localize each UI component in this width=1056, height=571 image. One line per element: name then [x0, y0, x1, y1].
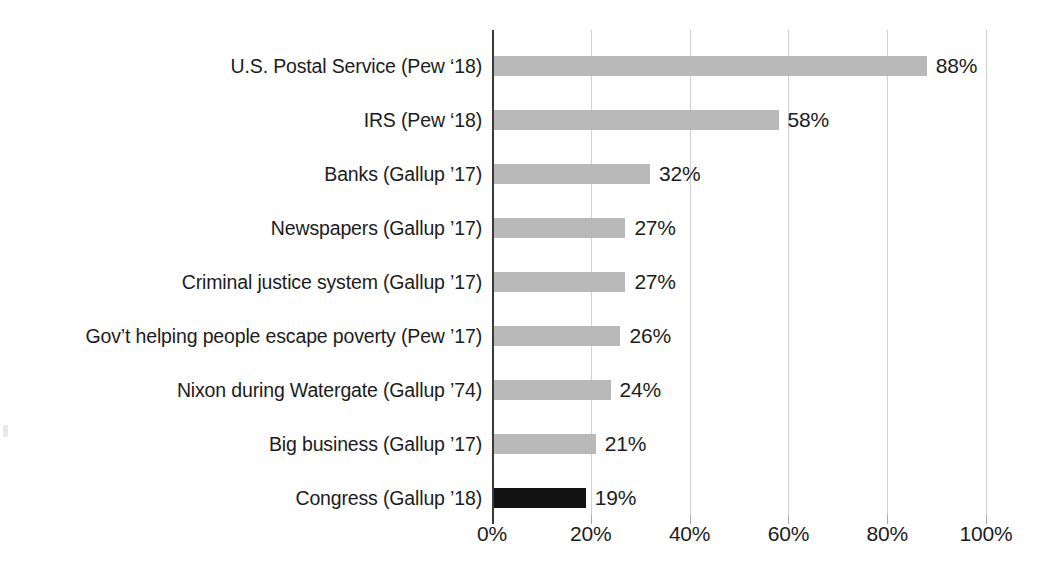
gridline-100% [986, 30, 987, 515]
bar [492, 110, 779, 130]
category-label: Congress (Gallup ’18) [0, 471, 482, 525]
x-tick-label: 100% [960, 522, 1013, 546]
category-label: IRS (Pew ‘18) [0, 93, 482, 147]
bar-row: Congress (Gallup ’18)19% [492, 471, 986, 525]
bar [492, 434, 596, 454]
x-tick-label: 80% [866, 522, 907, 546]
category-label: Gov’t helping people escape poverty (Pew… [0, 309, 482, 363]
category-label: Newspapers (Gallup ’17) [0, 201, 482, 255]
y-axis-line [492, 30, 494, 515]
bar-value-label: 21% [596, 434, 646, 454]
x-tick-label: 20% [570, 522, 611, 546]
bar-row: U.S. Postal Service (Pew ‘18)88% [492, 39, 986, 93]
bar [492, 272, 625, 292]
bar [492, 164, 650, 184]
bar-row: Newspapers (Gallup ’17)27% [492, 201, 986, 255]
category-label: Banks (Gallup ’17) [0, 147, 482, 201]
bar-row: Banks (Gallup ’17)32% [492, 147, 986, 201]
plot-area: U.S. Postal Service (Pew ‘18)88%IRS (Pew… [492, 30, 986, 515]
bar-value-label: 88% [927, 56, 977, 76]
bar [492, 218, 625, 238]
x-tick-label: 0% [477, 522, 507, 546]
bar-row: Big business (Gallup ’17)21% [492, 417, 986, 471]
bar-row: Gov’t helping people escape poverty (Pew… [492, 309, 986, 363]
category-label: Big business (Gallup ’17) [0, 417, 482, 471]
bar [492, 56, 927, 76]
bar-value-label: 27% [625, 218, 675, 238]
bar-value-label: 32% [650, 164, 700, 184]
bar [492, 380, 611, 400]
category-label: Nixon during Watergate (Gallup ’74) [0, 363, 482, 417]
bar-value-label: 58% [779, 110, 829, 130]
x-tick-label: 60% [768, 522, 809, 546]
bar-value-label: 27% [625, 272, 675, 292]
bar-row: Criminal justice system (Gallup ’17)27% [492, 255, 986, 309]
bar [492, 488, 586, 508]
category-label: U.S. Postal Service (Pew ‘18) [0, 39, 482, 93]
category-label: Criminal justice system (Gallup ’17) [0, 255, 482, 309]
bar-value-label: 26% [620, 326, 670, 346]
bar [492, 326, 620, 346]
x-tick-label: 40% [669, 522, 710, 546]
bar-chart: U.S. Postal Service (Pew ‘18)88%IRS (Pew… [0, 0, 1056, 571]
bar-row: Nixon during Watergate (Gallup ’74)24% [492, 363, 986, 417]
bar-row: IRS (Pew ‘18)58% [492, 93, 986, 147]
bar-value-label: 24% [611, 380, 661, 400]
bar-value-label: 19% [586, 488, 636, 508]
